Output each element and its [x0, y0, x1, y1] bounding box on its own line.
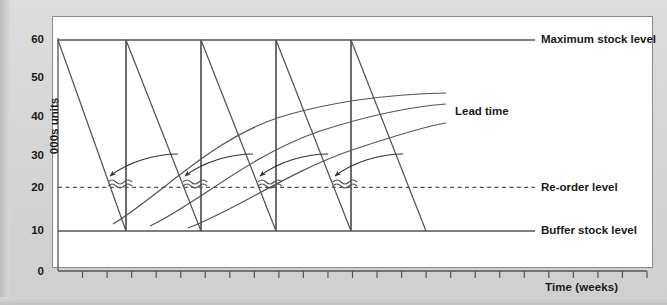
label-buffer-stock-level: Buffer stock level: [541, 224, 637, 236]
delivery-squiggle-4b: [333, 184, 357, 188]
label-re-order-level: Re-order level: [541, 181, 618, 193]
x-axis-title: Time (weeks): [545, 281, 618, 293]
y-tick-50: 50: [18, 71, 44, 83]
axis-lines: [58, 38, 647, 271]
y-tick-20: 20: [18, 181, 44, 193]
y-tick-0: 0: [18, 265, 44, 277]
lead-time-curve-3: [188, 123, 446, 228]
re-order-arrow-1: [110, 154, 178, 176]
delivery-squiggle-4: [333, 180, 357, 184]
re-order-arrows: [110, 154, 403, 176]
y-axis-title: 000s units: [48, 98, 60, 154]
y-axis-title-wrapper: 000s units: [44, 66, 60, 186]
lead-time-curve-2: [150, 104, 446, 226]
y-tick-60: 60: [18, 33, 44, 45]
y-tick-40: 40: [18, 110, 44, 122]
label-maximum-stock-level: Maximum stock level: [541, 33, 656, 45]
figure-stage: 60 50 40 30 20 10 0 000s units Time (wee…: [0, 0, 667, 305]
y-tick-30: 30: [18, 149, 44, 161]
stock-control-chart: [0, 0, 667, 305]
delivery-squiggle-2: [183, 180, 207, 184]
delivery-squiggle-1: [108, 180, 132, 184]
re-order-arrow-3: [260, 154, 328, 176]
lead-time-curve-1: [113, 93, 446, 224]
label-lead-time: Lead time: [455, 105, 509, 117]
x-axis-ticks: [83, 271, 647, 278]
re-order-arrow-2: [185, 154, 253, 176]
y-tick-10: 10: [18, 224, 44, 236]
lead-time-curves: [113, 93, 446, 228]
re-order-arrow-4: [335, 154, 403, 176]
